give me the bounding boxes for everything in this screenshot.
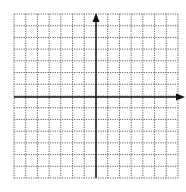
- x-axis-arrow-icon: [176, 94, 185, 101]
- axes: [14, 13, 185, 178]
- coordinate-grid: [0, 0, 186, 192]
